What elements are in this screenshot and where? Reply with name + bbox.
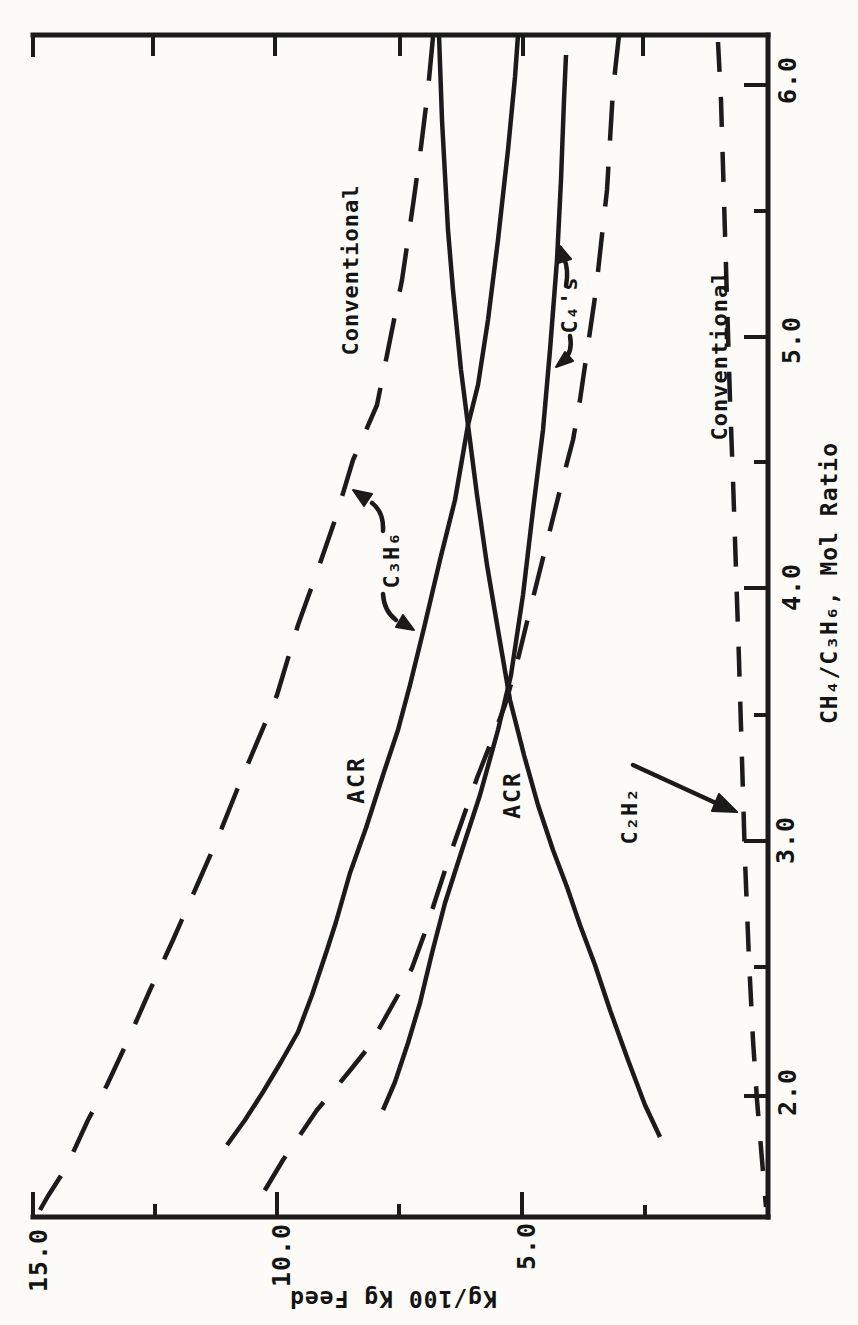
y-tick-15: 15.0 <box>24 1228 53 1292</box>
x-tick-5: 5.0 <box>777 316 806 364</box>
c3h6-label: C₃H₆ <box>379 532 404 589</box>
acr-label-c2h2: ACR <box>499 771 525 819</box>
c3h6-arrow-to-acr <box>383 594 414 630</box>
arrowhead-icon <box>353 490 372 506</box>
arrowhead-icon <box>712 794 737 812</box>
scanned-figure-page: 15.0 10.0 5.0 6.0 5.0 4.0 3.0 2.0 CH₄/C₃… <box>0 0 858 1325</box>
y-tick-10: 10.0 <box>267 1223 296 1287</box>
arrowhead-icon <box>396 615 414 630</box>
c4s-arrow-to-conventional <box>556 336 573 367</box>
c2h2-label: C₂H₂ <box>617 788 642 845</box>
c4s-label: C₄'s <box>557 277 582 334</box>
acr-label-c3h6: ACR <box>343 756 369 804</box>
c4s-conventional-curve <box>255 35 619 1207</box>
bottom-axis-ticks <box>33 1192 645 1217</box>
x-axis-title: CH₄/C₃H₆, Mol Ratio <box>816 442 842 724</box>
conventional-label-c3h6: Conventional <box>338 185 363 356</box>
c3h6-arrow-to-conventional <box>353 490 383 531</box>
c3h6-acr-curve <box>227 35 518 1145</box>
y-axis-title: Kg/100 Kg Feed <box>289 1286 497 1312</box>
c2h2-arrow-to-conventional <box>633 765 737 812</box>
x-tick-4: 4.0 <box>777 563 806 611</box>
x-tick-3: 3.0 <box>771 816 800 864</box>
c3h6-conventional-curve <box>40 37 433 1210</box>
y-tick-5: 5.0 <box>512 1222 541 1270</box>
x-tick-2: 2.0 <box>773 1068 802 1116</box>
figure-canvas: 15.0 10.0 5.0 6.0 5.0 4.0 3.0 2.0 CH₄/C₃… <box>0 0 858 1325</box>
x-tick-6: 6.0 <box>773 56 802 104</box>
arrowhead-icon <box>558 246 571 263</box>
c2h2-acr-curve <box>439 35 660 1137</box>
conventional-label-c2h2: Conventional <box>707 270 732 441</box>
c2h2-conventional-curve <box>718 42 766 1207</box>
top-axis-ticks <box>33 35 643 57</box>
